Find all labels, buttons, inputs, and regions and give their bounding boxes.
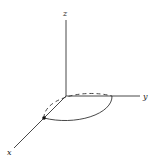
y-axis-label: y bbox=[142, 92, 148, 101]
x-axis-label: x bbox=[7, 148, 12, 157]
z-axis-label: z bbox=[62, 9, 68, 18]
3d-axes-diagram: z y x bbox=[0, 0, 157, 161]
x-axis bbox=[14, 96, 66, 148]
point-marker bbox=[42, 116, 46, 120]
circle-back-dashed bbox=[44, 93, 112, 118]
